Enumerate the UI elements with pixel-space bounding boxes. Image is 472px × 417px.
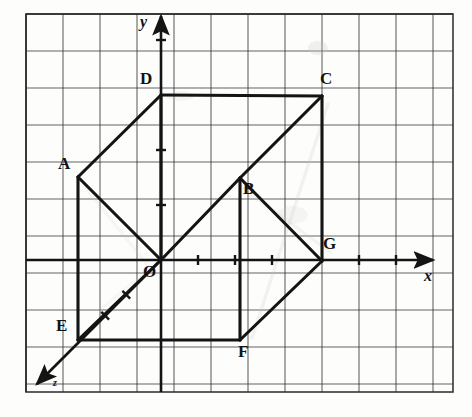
vertex-label-o: O: [143, 263, 156, 280]
axis-label-z: z: [53, 378, 57, 388]
cube-edge-b-c: [240, 96, 322, 178]
pencil-smudges: [84, 41, 330, 338]
axis-label-y: y: [140, 14, 147, 30]
axis-label-x: x: [424, 268, 432, 284]
cube-edge-o-b: [161, 178, 240, 260]
coordinate-axes: [26, 16, 433, 392]
vertex-label-a: A: [58, 155, 70, 172]
ghost-smudge: [308, 41, 328, 55]
cube-diagram-svg: [0, 0, 472, 417]
vertex-label-d: D: [140, 70, 152, 87]
vertex-label-c: C: [320, 70, 332, 87]
vertex-label-b: B: [243, 180, 254, 197]
figure-canvas: ABCDEFGOxyz: [0, 0, 472, 417]
vertex-label-g: G: [323, 235, 336, 252]
cube-edge-a-o: [78, 177, 161, 260]
vertex-label-e: E: [56, 317, 67, 334]
vertex-label-f: F: [238, 343, 248, 360]
cube-edge-d-c: [161, 95, 322, 96]
ghost-stroke: [84, 186, 150, 268]
cube-edge-a-d: [78, 95, 161, 177]
